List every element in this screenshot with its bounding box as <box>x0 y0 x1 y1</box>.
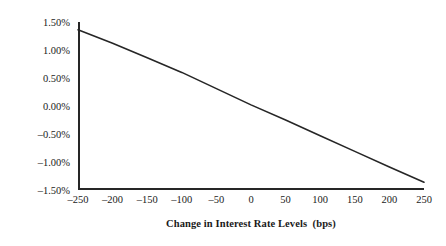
y-tick-label: 0.00% <box>0 100 70 113</box>
y-tick-label: –1.00% <box>0 156 70 169</box>
data-series-line <box>78 22 424 190</box>
y-tick-label: 0.50% <box>0 72 70 85</box>
y-tick-label: 1.00% <box>0 44 70 57</box>
y-tick-label: 1.50% <box>0 16 70 29</box>
x-axis-tick-labels: –250–200–150–100–50050100150200250 <box>0 193 446 207</box>
percentage-change-vs-rate-chart: Percentage Change in MCS Price 1.50%1.00… <box>0 0 446 246</box>
x-tick-label: 250 <box>402 193 446 207</box>
x-axis-title: Change in Interest Rate Levels (bps) <box>78 218 424 229</box>
y-tick-label: –0.50% <box>0 128 70 141</box>
y-axis-tick-labels: 1.50%1.00%0.50%0.00%–0.50%–1.00%–1.50% <box>0 0 74 246</box>
plot-area <box>78 22 424 190</box>
